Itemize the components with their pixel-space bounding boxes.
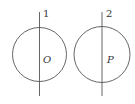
figure-circle-p: 2 P (74, 8, 130, 96)
line-2-label: 2 (106, 8, 112, 19)
figure-circle-o: 1 O (13, 8, 67, 96)
center-label-o: O (43, 54, 51, 65)
diagram-canvas: 1 O 2 P (0, 0, 135, 104)
line-1-label: 1 (43, 8, 49, 19)
center-label-p: P (106, 54, 114, 65)
